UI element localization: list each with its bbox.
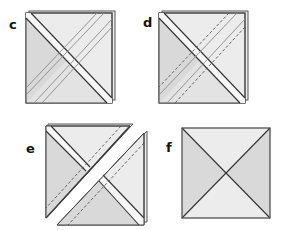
finished-block [182,128,270,218]
panel-label-c: c [9,17,17,32]
panel-e: e [26,124,147,225]
panel-label-d: d [143,15,152,30]
panel-c: c [9,11,115,103]
panel-label-e: e [26,141,35,156]
panel-d: d [143,11,248,103]
panel-f: f [166,128,270,218]
quilt-assembly-diagram: c d [0,0,285,230]
panel-label-f: f [166,140,172,155]
